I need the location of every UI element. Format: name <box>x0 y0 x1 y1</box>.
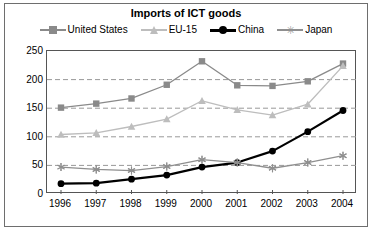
y-tick-label: 0 <box>3 188 43 199</box>
x-tick-label: 2000 <box>181 198 221 209</box>
y-tick-label: 250 <box>3 45 43 56</box>
legend-item-china[interactable]: China <box>210 24 264 36</box>
chart-figure: Imports of ICT goods United StatesEU-15C… <box>0 0 372 231</box>
legend-swatch <box>210 24 236 36</box>
data-point <box>269 148 276 155</box>
data-point <box>93 180 100 187</box>
y-tick-label: 100 <box>3 130 43 141</box>
data-point <box>93 100 99 106</box>
chart-legend: United StatesEU-15China✳Japan <box>0 24 372 36</box>
y-tick-label: 50 <box>3 159 43 170</box>
data-point <box>58 104 64 110</box>
legend-label: United States <box>68 24 128 36</box>
data-point <box>340 107 347 114</box>
square-marker-icon <box>305 78 311 84</box>
square-marker-icon <box>234 82 240 88</box>
data-point <box>163 172 170 179</box>
legend-item-japan[interactable]: ✳Japan <box>277 24 332 36</box>
square-marker-icon <box>49 26 57 34</box>
y-tick-label: 200 <box>3 73 43 84</box>
legend-label: China <box>238 24 264 36</box>
legend-swatch <box>141 24 167 36</box>
legend-item-eu-15[interactable]: EU-15 <box>141 24 197 36</box>
data-point <box>128 95 134 101</box>
circle-marker-icon <box>199 164 206 171</box>
legend-swatch <box>40 24 66 36</box>
circle-marker-icon <box>163 172 170 179</box>
x-tick-label: 1997 <box>75 198 115 209</box>
square-marker-icon <box>269 83 275 89</box>
data-point <box>269 83 275 89</box>
square-marker-icon <box>199 58 205 64</box>
star-marker-icon: ✳ <box>286 26 294 34</box>
series-line-china <box>61 110 343 183</box>
square-marker-icon <box>164 82 170 88</box>
plot-svg <box>47 51 357 194</box>
data-point <box>128 176 135 183</box>
square-marker-icon <box>128 95 134 101</box>
data-point <box>198 97 206 104</box>
square-marker-icon <box>58 104 64 110</box>
x-tick-label: 2003 <box>287 198 327 209</box>
legend-item-united-states[interactable]: United States <box>40 24 128 36</box>
triangle-marker-icon <box>150 26 158 34</box>
data-point <box>234 82 240 88</box>
triangle-marker-icon <box>163 115 171 122</box>
circle-marker-icon <box>340 107 347 114</box>
x-tick-label: 1996 <box>40 198 80 209</box>
circle-marker-icon <box>219 26 227 34</box>
circle-marker-icon <box>304 128 311 135</box>
data-point <box>199 58 205 64</box>
circle-marker-icon <box>58 180 65 187</box>
legend-swatch: ✳ <box>277 24 303 36</box>
data-point <box>305 78 311 84</box>
data-point <box>199 164 206 171</box>
x-tick-label: 1999 <box>146 198 186 209</box>
circle-marker-icon <box>93 180 100 187</box>
x-tick-label: 2002 <box>252 198 292 209</box>
legend-label: Japan <box>305 24 332 36</box>
square-marker-icon <box>93 100 99 106</box>
plot-area <box>46 50 356 193</box>
data-point <box>304 128 311 135</box>
triangle-marker-icon <box>198 97 206 104</box>
circle-marker-icon <box>128 176 135 183</box>
y-tick-label: 150 <box>3 102 43 113</box>
data-point <box>163 115 171 122</box>
chart-title: Imports of ICT goods <box>0 7 372 19</box>
data-point <box>164 82 170 88</box>
x-tick-label: 2001 <box>216 198 256 209</box>
circle-marker-icon <box>269 148 276 155</box>
x-tick-label: 2004 <box>322 198 362 209</box>
data-point <box>58 180 65 187</box>
x-tick-label: 1998 <box>111 198 151 209</box>
legend-label: EU-15 <box>169 24 197 36</box>
